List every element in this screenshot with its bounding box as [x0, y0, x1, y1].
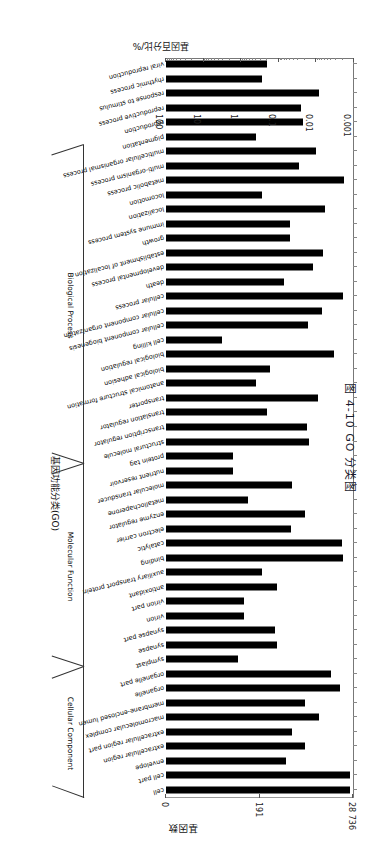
category-tick	[353, 281, 357, 282]
category-label: organelle	[134, 684, 165, 699]
bar	[166, 728, 292, 735]
percent-axis-minor-tick	[255, 58, 256, 61]
category-tick	[353, 687, 357, 688]
bar	[166, 641, 277, 648]
percent-axis-tick-label: 10	[192, 114, 201, 124]
plot-wrapper: 基因数 基因百分比/% 基因功能分类(GO) 1001010.10.010.00…	[0, 0, 381, 858]
bar-row	[166, 202, 353, 217]
category-label: symplast	[135, 655, 165, 670]
bar	[166, 714, 319, 721]
bar-row	[166, 246, 353, 261]
bar-row	[166, 710, 353, 725]
bar-row	[166, 130, 353, 145]
figure-caption: 图 4-10 GO 分类图	[343, 338, 359, 538]
bar-row	[166, 579, 353, 594]
percent-axis-minor-tick	[204, 58, 205, 61]
bar-row	[166, 347, 353, 362]
percent-axis-minor-tick	[218, 58, 219, 61]
bar	[166, 699, 305, 706]
count-axis-tick	[352, 794, 353, 798]
bar-row	[166, 521, 353, 536]
percent-axis-minor-tick	[335, 58, 336, 61]
bar	[166, 293, 343, 300]
bar-row	[166, 594, 353, 609]
bar-row	[166, 231, 353, 246]
bar	[166, 307, 322, 314]
category-tick	[353, 63, 357, 64]
percent-axis-minor-tick	[180, 58, 181, 61]
bar	[166, 685, 340, 692]
percent-axis-tick-label: 1	[229, 114, 238, 119]
group-bracket-arm	[52, 656, 85, 667]
category-tick	[353, 789, 357, 790]
category-tick	[353, 615, 357, 616]
bar	[166, 569, 262, 576]
bar	[166, 670, 331, 677]
bar-row	[166, 188, 353, 203]
bar-row	[166, 217, 353, 232]
bar	[166, 90, 319, 97]
category-label: virion	[146, 612, 165, 624]
category-tick	[353, 310, 357, 311]
bar-row	[166, 405, 353, 420]
percent-axis-minor-tick	[208, 58, 209, 61]
bar	[166, 336, 222, 343]
group-bracket-arm	[52, 666, 84, 679]
percent-axis-minor-tick	[342, 58, 343, 61]
percent-axis-minor-tick	[169, 58, 170, 61]
category-tick	[353, 557, 357, 558]
category-tick	[353, 745, 357, 746]
bar	[166, 249, 323, 256]
category-tick	[353, 150, 357, 151]
category-label: antioxidant	[128, 583, 165, 599]
category-tick	[353, 136, 357, 137]
bar	[166, 598, 244, 605]
category-tick	[353, 78, 357, 79]
category-label: cell part	[138, 771, 165, 785]
group-label: Cellular Component	[66, 683, 75, 783]
bar-row	[166, 681, 353, 696]
percent-axis-minor-tick	[293, 58, 294, 61]
category-tick	[353, 673, 357, 674]
category-tick	[353, 586, 357, 587]
bar-row	[166, 637, 353, 652]
bar-row	[166, 492, 353, 507]
category-label: binding	[140, 554, 165, 568]
percent-axis-minor-tick	[280, 58, 281, 61]
bar-row	[166, 144, 353, 159]
bar	[166, 351, 334, 358]
category-tick	[353, 702, 357, 703]
category-label: cell	[152, 786, 165, 796]
bar	[166, 409, 267, 416]
bar-row	[166, 173, 353, 188]
percent-axis-minor-tick	[286, 58, 287, 61]
percent-axis-minor-tick	[327, 58, 328, 61]
plot-area	[166, 58, 354, 798]
bar	[166, 467, 233, 474]
group-bracket-spine	[83, 145, 84, 464]
bar	[166, 278, 284, 285]
category-tick	[353, 731, 357, 732]
category-label: protein tag	[129, 452, 165, 468]
go-classification-figure: 基因数 基因百分比/% 基因功能分类(GO) 1001010.10.010.00…	[0, 0, 381, 858]
bar-row	[166, 666, 353, 681]
percent-axis-minor-tick	[246, 58, 247, 61]
percent-axis-minor-tick	[260, 58, 261, 61]
bar	[166, 206, 325, 213]
bar	[166, 743, 305, 750]
count-axis-tick-label: 0	[160, 802, 169, 807]
percent-axis-minor-tick	[222, 58, 223, 61]
bar-row	[166, 159, 353, 174]
bar	[166, 438, 309, 445]
bar	[166, 540, 342, 547]
bar-row	[166, 420, 353, 435]
category-tick	[353, 295, 357, 296]
category-tick	[353, 629, 357, 630]
bar	[166, 627, 275, 634]
bar	[166, 61, 267, 68]
category-tick	[353, 266, 357, 267]
bar	[166, 162, 299, 169]
bar-row	[166, 260, 353, 275]
percent-axis-minor-tick	[206, 58, 207, 61]
category-tick	[353, 774, 357, 775]
